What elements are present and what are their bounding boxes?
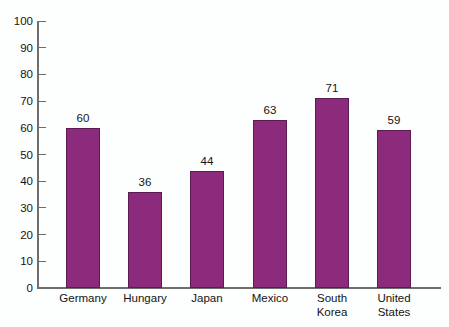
bar-value-label: 36 [115,176,175,188]
y-axis-line [37,21,39,289]
y-axis-tick-label: 70 [0,95,33,107]
bar-fill [129,193,161,287]
y-axis-tick-label: 90 [0,42,33,54]
bar [66,128,100,288]
y-axis-tick-label: 10 [0,255,33,267]
y-axis-tick-label: 50 [0,149,33,161]
y-axis-tick [39,207,46,208]
y-axis-tick-label: 80 [0,68,33,80]
y-axis-tick [39,47,46,48]
y-axis-tick-label: 20 [0,229,33,241]
bar-chart: 0102030405060708090100 603644637159 Germ… [0,0,449,327]
y-axis-tick [39,127,46,128]
category-label-line: States [357,306,431,320]
y-axis-tick [39,101,46,102]
y-axis-tick [39,234,46,235]
y-axis-tick [39,21,46,22]
bar-value-label: 44 [177,155,237,167]
bar-fill [316,99,348,287]
x-axis-category-label: UnitedStates [357,292,431,319]
category-label-line: United [357,292,431,306]
bar [128,192,162,288]
y-axis-tick-label: 100 [0,15,33,27]
y-axis-tick [39,181,46,182]
y-axis-tick [39,74,46,75]
bar-value-label: 59 [364,114,424,126]
y-axis-tick-label: 60 [0,122,33,134]
bar [190,171,224,288]
bar-fill [67,129,99,287]
bar [315,98,349,288]
y-axis-tick [39,261,46,262]
y-axis-tick-label: 30 [0,202,33,214]
bar-value-label: 63 [240,104,300,116]
y-axis-tick-label: 0 [0,282,33,294]
bar-fill [191,172,223,287]
y-axis-tick [39,154,46,155]
y-axis-tick [39,288,46,289]
bar [377,130,411,288]
bar [253,120,287,288]
bar-fill [378,131,410,287]
bar-value-label: 71 [302,82,362,94]
y-axis-tick-label: 40 [0,175,33,187]
bar-value-label: 60 [53,112,113,124]
bar-fill [254,121,286,287]
